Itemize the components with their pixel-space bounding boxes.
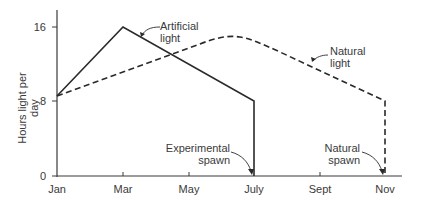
y-axis-label: Hours light per day [16,66,40,150]
x-tick-label-july: July [244,183,264,195]
natural-spawn-arrow [362,152,382,171]
annotation-line-2: spawn [160,154,230,166]
annotation-line-1: Natural [300,142,360,154]
natural-light-annotation: Natural light [330,45,365,69]
x-tick-label-nov: Nov [375,183,395,195]
y-tick-label-8: 8 [40,95,46,107]
natural-light-arrow [313,55,328,61]
x-tick-label-mar: Mar [114,183,133,195]
arrowhead [248,169,254,175]
chart-canvas [0,0,423,208]
annotation-line-1: Artificial [160,20,199,32]
experimental-spawn-arrow [231,152,251,171]
annotation-line-1: Natural [330,45,365,57]
annotation-line-2: light [160,32,199,44]
natural-spawn-annotation: Natural spawn [300,142,360,166]
arrowhead [311,57,316,62]
arrowhead [379,169,385,175]
annotation-line-2: spawn [300,154,360,166]
x-tick-label-sept: Sept [309,183,332,195]
x-tick-label-jan: Jan [48,183,66,195]
artificial-light-arrow [142,27,160,35]
annotation-line-1: Experimental [160,142,230,154]
annotation-line-2: light [330,57,365,69]
x-tick-label-may: May [179,183,200,195]
y-tick-label-0: 0 [40,170,46,182]
y-tick-label-16: 16 [34,21,46,33]
experimental-spawn-annotation: Experimental spawn [160,142,230,166]
artificial-light-annotation: Artificial light [160,20,199,44]
